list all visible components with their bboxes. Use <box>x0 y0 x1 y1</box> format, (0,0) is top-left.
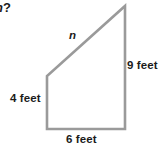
hypotenuse-label: n <box>69 29 76 42</box>
base-label: 6 feet <box>66 133 97 146</box>
right-side-label: 9 feet <box>127 59 158 72</box>
geometry-figure: n? n 9 feet 4 feet 6 feet <box>0 0 163 151</box>
question-mark: ? <box>3 0 11 15</box>
trapezoid-outline <box>47 6 125 129</box>
left-side-label: 4 feet <box>10 92 41 105</box>
clipped-question-text: n? <box>0 1 11 14</box>
trapezoid-shape <box>0 0 163 151</box>
